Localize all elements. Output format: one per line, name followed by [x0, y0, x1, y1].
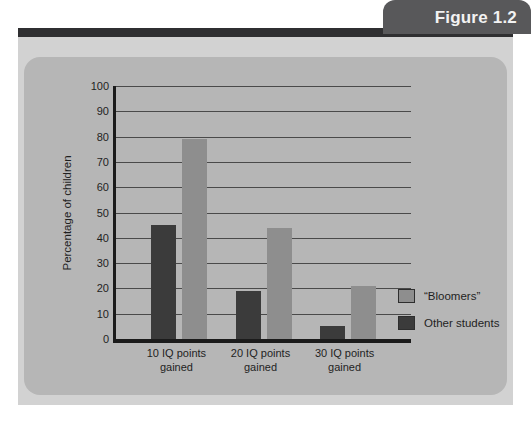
bar: [236, 291, 261, 339]
legend-item: “Bloomers”: [398, 289, 506, 303]
x-axis-label-line1: 30 IQ points: [315, 347, 374, 359]
x-axis-label-line1: 10 IQ points: [147, 347, 206, 359]
y-axis-tick-label: 0: [103, 333, 109, 345]
legend-swatch: [398, 316, 415, 330]
legend-label: Other students: [424, 317, 499, 329]
y-axis-tick-label: 90: [97, 105, 109, 117]
y-axis-title: Percentage of children: [58, 86, 76, 339]
chart-panel: Percentage of children 10090807060504030…: [24, 57, 507, 395]
x-axis-label-line1: 20 IQ points: [231, 347, 290, 359]
plot-area: 1009080706050403020100: [113, 86, 411, 343]
legend-swatch: [398, 289, 415, 303]
x-axis-label-line2: gained: [290, 361, 400, 375]
bar: [320, 326, 345, 339]
legend-label: “Bloomers”: [424, 290, 480, 302]
chart-legend: “Bloomers”Other students: [398, 289, 506, 343]
y-axis-tick-label: 50: [97, 207, 109, 219]
y-axis-tick-label: 100: [91, 80, 109, 92]
plot-wrapper: Percentage of children 10090807060504030…: [24, 57, 507, 395]
gridline: [116, 162, 411, 163]
gridline: [116, 137, 411, 138]
y-axis-tick-label: 70: [97, 156, 109, 168]
gridline: [116, 187, 411, 188]
x-axis-group-label: 30 IQ pointsgained: [290, 347, 400, 375]
y-axis-tick-label: 60: [97, 181, 109, 193]
y-axis-title-text: Percentage of children: [61, 155, 73, 270]
bar: [267, 228, 292, 339]
legend-item: Other students: [398, 316, 506, 330]
bar: [351, 286, 376, 339]
figure-number-label: Figure 1.2: [435, 9, 517, 26]
y-axis-tick-label: 40: [97, 232, 109, 244]
y-axis-tick-label: 10: [97, 308, 109, 320]
y-axis-tick-label: 80: [97, 131, 109, 143]
figure-number-tab: Figure 1.2: [383, 0, 531, 34]
bar: [151, 225, 176, 339]
y-axis-tick-label: 30: [97, 257, 109, 269]
bar: [182, 139, 207, 339]
gridline: [116, 111, 411, 112]
gridline: [116, 86, 411, 87]
y-axis-tick-label: 20: [97, 282, 109, 294]
gridline: [116, 213, 411, 214]
figure-root: Figure 1.2 Percentage of children 100908…: [0, 0, 531, 421]
